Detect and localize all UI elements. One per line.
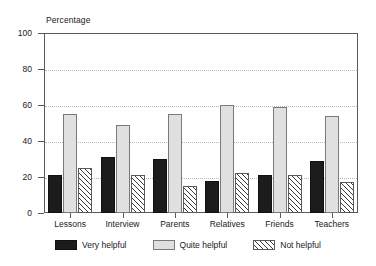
gridline-80 — [45, 70, 357, 71]
x-tick-label-teachers: Teachers — [315, 219, 350, 229]
x-tick-mark-parents — [175, 213, 176, 218]
x-tick-label-lessons: Lessons — [54, 219, 86, 229]
y-tick-label-20: 20 — [0, 172, 32, 182]
legend-item-very-helpful[interactable]: Very helpful — [55, 240, 126, 250]
legend-label: Very helpful — [82, 240, 126, 250]
x-tick-label-interview: Interview — [105, 219, 139, 229]
x-tick-label-relatives: Relatives — [210, 219, 245, 229]
x-tick-mark-teachers — [332, 213, 333, 218]
y-tick-label-100: 100 — [0, 28, 32, 38]
solid-light-swatch — [153, 240, 175, 250]
legend-label: Quite helpful — [180, 240, 228, 250]
chart-legend: Very helpfulQuite helpfulNot helpful — [0, 240, 376, 250]
gridline-40 — [45, 142, 357, 143]
legend-item-not-helpful[interactable]: Not helpful — [253, 240, 321, 250]
x-tick-mark-lessons — [70, 213, 71, 218]
gridline-60 — [45, 106, 357, 107]
y-tick-mark-0 — [38, 213, 44, 214]
gridline-20 — [45, 178, 357, 179]
x-tick-mark-interview — [123, 213, 124, 218]
y-axis-title: Percentage — [46, 15, 90, 25]
x-tick-mark-friends — [280, 213, 281, 218]
solid-dark-swatch — [55, 240, 77, 250]
diagonal-hatch-swatch — [253, 240, 275, 250]
y-tick-label-0: 0 — [0, 208, 32, 218]
y-tick-label-80: 80 — [0, 64, 32, 74]
legend-label: Not helpful — [280, 240, 321, 250]
y-tick-label-40: 40 — [0, 136, 32, 146]
x-tick-label-parents: Parents — [160, 219, 189, 229]
legend-item-quite-helpful[interactable]: Quite helpful — [153, 240, 228, 250]
y-tick-label-60: 60 — [0, 100, 32, 110]
plot-area — [44, 33, 358, 213]
x-tick-label-friends: Friends — [265, 219, 293, 229]
x-tick-mark-relatives — [227, 213, 228, 218]
bar-chart: Percentage 020406080100 LessonsInterview… — [0, 0, 376, 266]
